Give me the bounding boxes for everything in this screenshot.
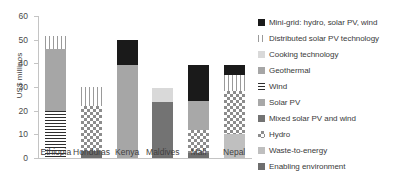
y-axis-tick: 0	[34, 158, 38, 159]
bar-nepal	[224, 16, 245, 158]
x-axis-label-mali: Mali	[191, 147, 207, 157]
x-axis-label-honduras: Honduras	[73, 147, 110, 157]
legend-item-label: Hydro	[269, 130, 290, 139]
legend-item[interactable]: Enabling environment	[258, 159, 406, 175]
plot-area: 0102030405060	[38, 16, 252, 158]
legend-item[interactable]: Mini-grid: hydro, solar PV, wind	[258, 14, 406, 30]
legend-swatch-icon	[258, 67, 265, 74]
legend-swatch-icon	[258, 115, 265, 122]
legend-item-label: Solar PV	[269, 98, 300, 107]
chart-legend: Mini-grid: hydro, solar PV, windDistribu…	[258, 14, 406, 175]
legend-swatch-icon	[258, 35, 265, 42]
x-axis-label-maldives: Maldives	[146, 147, 180, 157]
legend-item-label: Geothermal	[269, 66, 310, 75]
y-axis-tick: 60	[34, 16, 38, 17]
legend-item[interactable]: Geothermal	[258, 62, 406, 78]
bar-segment	[224, 75, 245, 90]
y-axis-tick: 20	[34, 111, 38, 112]
y-axis-tick-label: 0	[23, 153, 28, 163]
bar-segment	[45, 36, 66, 49]
y-axis-tick-label: 20	[19, 106, 28, 116]
y-axis-tick-label: 50	[19, 35, 28, 45]
legend-item-label: Cooking technology	[269, 50, 338, 59]
legend-item[interactable]: Hydro	[258, 127, 406, 143]
y-axis-tick-label: 30	[19, 82, 28, 92]
bar-ethiopia	[45, 16, 66, 158]
x-axis-label-kenya: Kenya	[115, 147, 139, 157]
bar-segment	[117, 65, 138, 158]
legend-swatch-icon	[258, 147, 265, 154]
legend-swatch-icon	[258, 99, 265, 106]
legend-item[interactable]: Waste-to-energy	[258, 143, 406, 159]
legend-item-label: Mini-grid: hydro, solar PV, wind	[269, 18, 377, 27]
legend-item[interactable]: Cooking technology	[258, 46, 406, 62]
y-axis-tick: 50	[34, 40, 38, 41]
legend-item-label: Enabling environment	[269, 162, 345, 171]
bar-segment	[188, 101, 209, 129]
legend-item-label: Mixed solar PV and wind	[269, 114, 356, 123]
y-axis-tick: 40	[34, 63, 38, 64]
x-axis-line	[38, 158, 252, 159]
legend-item[interactable]: Wind	[258, 78, 406, 94]
x-axis-label-ethiopia: Ethiopia	[40, 147, 71, 157]
bar-segment	[188, 65, 209, 102]
bar-segment	[224, 65, 245, 76]
bar-segment	[117, 40, 138, 64]
y-axis-line	[38, 16, 39, 158]
y-axis-tick-label: 60	[19, 11, 28, 21]
bar-segment	[45, 49, 66, 111]
x-axis-label-nepal: Nepal	[223, 147, 245, 157]
y-axis-tick-label: 40	[19, 58, 28, 68]
y-axis-tick: 30	[34, 87, 38, 88]
bar-mali	[188, 16, 209, 158]
legend-item[interactable]: Distributed solar PV technology	[258, 30, 406, 46]
y-axis-tick: 10	[34, 134, 38, 135]
legend-swatch-icon	[258, 163, 265, 170]
legend-swatch-icon	[258, 131, 265, 138]
bar-maldives	[152, 16, 173, 158]
legend-item[interactable]: Solar PV	[258, 94, 406, 110]
legend-swatch-icon	[258, 51, 265, 58]
bar-kenya	[117, 16, 138, 158]
legend-swatch-icon	[258, 19, 265, 26]
y-axis-tick-label: 10	[19, 129, 28, 139]
legend-item-label: Wind	[269, 82, 287, 91]
bar-segment	[81, 87, 102, 106]
legend-swatch-icon	[258, 83, 265, 90]
stacked-bar-chart: US$ millinos 0102030405060 Mini-grid: hy…	[0, 0, 407, 190]
legend-item-label: Waste-to-energy	[269, 146, 327, 155]
legend-item[interactable]: Mixed solar PV and wind	[258, 111, 406, 127]
legend-item-label: Distributed solar PV technology	[269, 34, 379, 43]
bar-segment	[152, 88, 173, 101]
y-axis-title: US$ millinos	[15, 16, 24, 136]
bar-segment	[81, 106, 102, 151]
bar-honduras	[81, 16, 102, 158]
bar-segment	[224, 91, 245, 135]
